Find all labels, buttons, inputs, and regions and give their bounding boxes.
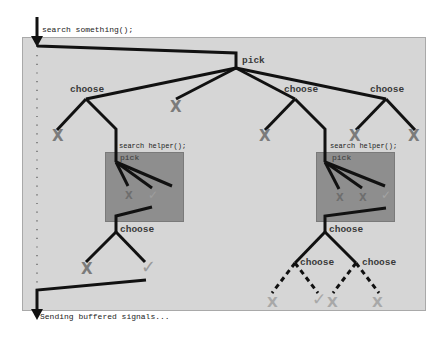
success-mark-icon: ✓: [148, 189, 158, 201]
fail-mark-icon: X: [259, 129, 271, 144]
choose-label-speculative-right: choose: [362, 257, 396, 268]
speculative-fail-mark-icon: X: [327, 295, 338, 309]
root-pick-label: pick: [242, 55, 265, 66]
helper-pick-label-left: pick: [120, 153, 139, 162]
choose-label-speculative-left: choose: [300, 257, 334, 268]
fail-mark-icon: X: [125, 191, 133, 201]
speculative-success-mark-icon: ✓: [312, 291, 326, 308]
choose-label-right-lower: choose: [329, 224, 363, 235]
success-mark-icon: ✓: [141, 258, 156, 276]
fail-mark-icon: X: [359, 193, 367, 203]
fail-mark-icon: X: [81, 262, 93, 277]
helper-pick-label-right: pick: [332, 153, 351, 162]
speculative-fail-mark-icon: X: [267, 295, 278, 309]
tree-edges: [0, 0, 448, 337]
choose-label-middle: choose: [284, 84, 318, 95]
choose-label-left-lower: choose: [120, 224, 154, 235]
fail-mark-icon: X: [336, 193, 344, 203]
helper-call-label-left: search helper();: [119, 142, 186, 150]
fail-mark-icon: X: [349, 129, 361, 144]
exit-status-label: Sending buffered signals...: [40, 312, 170, 321]
speculative-fail-mark-icon: X: [372, 295, 383, 309]
success-mark-icon: ✓: [381, 189, 391, 201]
fail-mark-icon: X: [170, 100, 182, 115]
fail-mark-icon: X: [52, 129, 64, 144]
fail-mark-icon: X: [408, 129, 420, 144]
helper-call-label-right: search helper();: [330, 142, 397, 150]
entry-call-label: search something();: [42, 25, 133, 34]
choose-label-left: choose: [70, 84, 104, 95]
choose-label-right: choose: [370, 84, 404, 95]
search-tree-diagram: search something(); Sending buffered sig…: [0, 0, 448, 337]
